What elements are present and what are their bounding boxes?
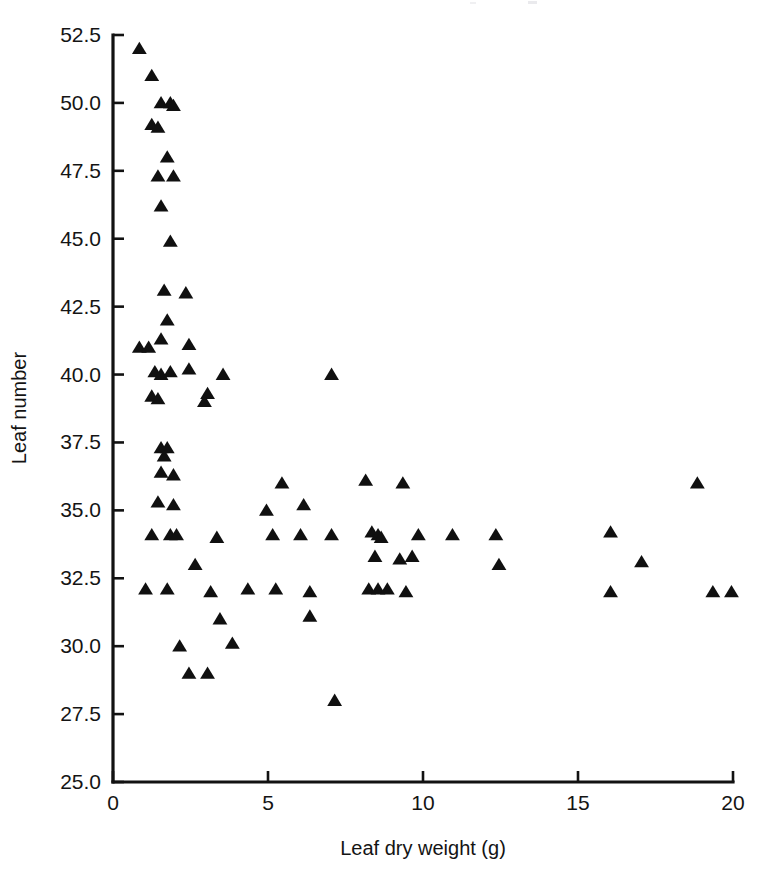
x-tick-label-2: 10 xyxy=(411,791,434,814)
data-point xyxy=(634,555,649,567)
data-point xyxy=(178,286,193,298)
x-tick-label-0: 0 xyxy=(107,791,119,814)
data-point xyxy=(182,338,197,350)
data-point xyxy=(302,609,317,621)
data-point xyxy=(405,550,420,562)
y-axis-tick-labels: 25.027.530.032.535.037.540.042.545.047.5… xyxy=(60,23,101,793)
data-point xyxy=(144,528,159,540)
x-axis-title: Leaf dry weight (g) xyxy=(340,837,506,859)
data-point xyxy=(411,528,426,540)
data-point xyxy=(399,585,414,597)
data-point xyxy=(216,368,231,380)
data-point xyxy=(213,612,228,624)
data-points xyxy=(132,42,739,706)
data-point xyxy=(265,528,280,540)
data-point xyxy=(395,476,410,488)
data-point xyxy=(154,332,169,344)
data-point xyxy=(445,528,460,540)
x-tick-label-3: 15 xyxy=(566,791,589,814)
data-point xyxy=(705,585,720,597)
data-point xyxy=(492,558,507,570)
data-point xyxy=(358,474,373,486)
data-point xyxy=(166,169,181,181)
data-point xyxy=(259,503,274,515)
data-point xyxy=(163,365,178,377)
data-point xyxy=(138,582,153,594)
y-tick-label-8: 45.0 xyxy=(60,227,101,250)
data-point xyxy=(380,582,395,594)
data-point xyxy=(157,283,172,295)
y-tick-label-0: 25.0 xyxy=(60,770,101,793)
y-tick-label-2: 30.0 xyxy=(60,634,101,657)
y-tick-label-10: 50.0 xyxy=(60,91,101,114)
y-tick-label-5: 37.5 xyxy=(60,430,101,453)
x-axis-tick-labels: 05101520 xyxy=(107,791,745,814)
y-tick-label-6: 40.0 xyxy=(60,363,101,386)
data-point xyxy=(368,550,383,562)
data-point xyxy=(275,476,290,488)
data-point xyxy=(603,525,618,537)
data-point xyxy=(188,558,203,570)
data-point xyxy=(154,199,169,211)
y-axis-title: Leaf number xyxy=(8,352,30,465)
data-point xyxy=(163,235,178,247)
data-point xyxy=(268,582,283,594)
y-tick-label-9: 47.5 xyxy=(60,159,101,182)
x-tick-label-4: 20 xyxy=(721,791,744,814)
data-point xyxy=(141,340,156,352)
x-tick-label-1: 5 xyxy=(262,791,274,814)
y-tick-label-3: 32.5 xyxy=(60,566,101,589)
data-point xyxy=(160,313,175,325)
data-point xyxy=(166,468,181,480)
data-point xyxy=(203,585,218,597)
data-point xyxy=(182,362,197,374)
data-point xyxy=(690,476,705,488)
y-tick-label-4: 35.0 xyxy=(60,498,101,521)
data-point xyxy=(240,582,255,594)
data-point xyxy=(392,552,407,564)
data-point xyxy=(166,498,181,510)
data-point xyxy=(302,585,317,597)
data-point xyxy=(182,666,197,678)
scatter-plot-figure: 25.027.530.032.535.037.540.042.545.047.5… xyxy=(0,0,768,879)
data-point xyxy=(293,528,308,540)
scan-artifacts xyxy=(470,1,537,4)
data-point xyxy=(324,528,339,540)
data-point xyxy=(144,69,159,81)
y-tick-label-11: 52.5 xyxy=(60,23,101,46)
data-point xyxy=(225,637,240,649)
data-point xyxy=(160,582,175,594)
data-point xyxy=(724,585,739,597)
data-point xyxy=(324,368,339,380)
y-tick-label-1: 27.5 xyxy=(60,702,101,725)
data-point xyxy=(151,169,166,181)
data-point xyxy=(151,495,166,507)
data-point xyxy=(296,498,311,510)
data-point xyxy=(172,639,187,651)
y-tick-label-7: 42.5 xyxy=(60,295,101,318)
data-point xyxy=(603,585,618,597)
data-point xyxy=(200,666,215,678)
data-point xyxy=(132,42,147,54)
data-point xyxy=(327,694,342,706)
data-point xyxy=(209,531,224,543)
data-point xyxy=(200,387,215,399)
plot-canvas: 25.027.530.032.535.037.540.042.545.047.5… xyxy=(0,0,768,879)
data-point xyxy=(488,528,503,540)
data-point xyxy=(160,150,175,162)
data-point xyxy=(154,465,169,477)
